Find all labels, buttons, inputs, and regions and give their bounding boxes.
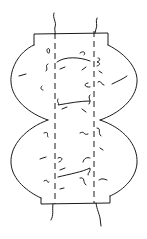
lower-lobe-right xyxy=(100,120,137,196)
lower-lobe-left xyxy=(11,120,48,198)
upper-lobe-left xyxy=(11,45,48,120)
sketch-figure xyxy=(0,0,147,239)
thread-bottom-right xyxy=(96,203,101,226)
thread-bottom-left xyxy=(51,204,53,220)
upper-lobe-right xyxy=(100,45,137,120)
bottom-cap xyxy=(41,196,110,204)
top-cap xyxy=(34,33,108,45)
thread-top-right xyxy=(95,18,97,33)
thread-top-left xyxy=(54,13,56,34)
